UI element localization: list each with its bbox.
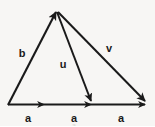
vector-diagram-canvas: b u v a a a a (0, 0, 155, 126)
vector-label-a-3: a (118, 113, 124, 124)
vector-b-line (8, 12, 56, 105)
vector-label-u: u (60, 59, 67, 70)
vector-label-v: v (106, 43, 112, 54)
faint-a-artifact: a (72, 122, 76, 127)
vector-v-line (58, 12, 145, 101)
vector-label-a-1: a (25, 113, 31, 124)
vector-u-line (57, 12, 91, 101)
vector-label-b: b (19, 48, 26, 59)
vector-diagram-svg (0, 0, 155, 126)
